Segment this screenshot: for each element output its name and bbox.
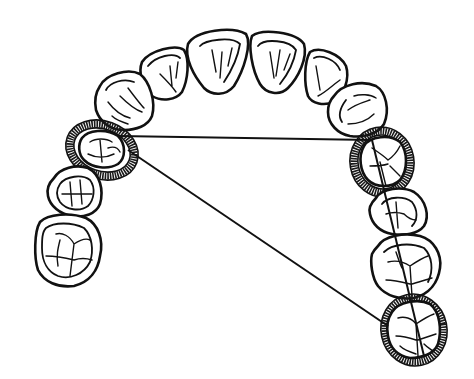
- transverse-line: [118, 136, 372, 140]
- molar-right-1: [371, 234, 440, 298]
- central-incisor-left: [187, 30, 248, 94]
- diagonal-line: [128, 150, 388, 326]
- central-incisor-right: [250, 32, 304, 93]
- molar-left-1: [35, 215, 101, 287]
- premolar-right-2: [369, 189, 426, 235]
- molar-right-2-circled: [374, 288, 454, 372]
- dental-arch-diagram: Occlusal view of a dental arch with inci…: [0, 0, 474, 379]
- premolar-left-2: [47, 166, 101, 216]
